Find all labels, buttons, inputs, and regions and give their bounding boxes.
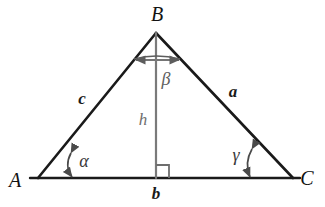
triangle-outline (30, 33, 300, 178)
vertex-label-B: B (151, 4, 163, 24)
segment-side-c (38, 33, 156, 178)
angle-arc-gamma (247, 149, 252, 177)
angle-label-beta: β (162, 70, 171, 88)
vertex-label-C: C (300, 168, 313, 188)
right-angle-marker (156, 165, 169, 178)
side-label-b: b (152, 185, 161, 202)
geometry-canvas (0, 0, 325, 207)
altitude-label-h: h (139, 111, 148, 128)
angle-arc-alpha (68, 153, 72, 177)
side-label-a: a (229, 83, 238, 100)
vertex-label-A: A (9, 170, 21, 190)
triangle-diagram: A B C c a b h α β γ (0, 0, 325, 207)
angle-label-gamma: γ (232, 146, 239, 164)
segment-side-a (156, 33, 293, 178)
angle-label-alpha: α (79, 152, 88, 170)
side-label-c: c (78, 90, 86, 107)
